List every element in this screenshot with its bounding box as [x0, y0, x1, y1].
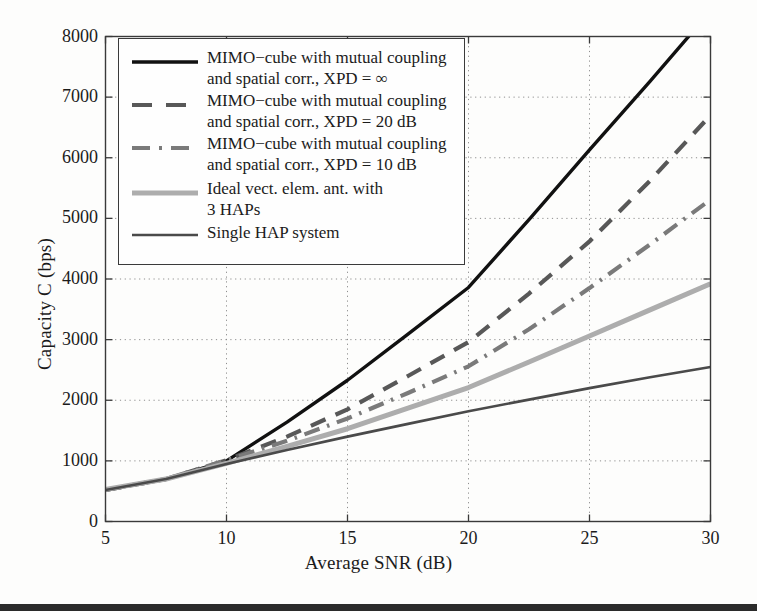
legend-swatch-line-solid-black	[129, 47, 201, 69]
page-footer-bar	[0, 604, 757, 611]
legend-swatch-line-solid-dark	[129, 222, 201, 244]
legend-item: Single HAP system	[119, 222, 464, 244]
ytick-label: 2000	[20, 389, 98, 410]
series-line-5	[106, 367, 711, 490]
ytick-label: 3000	[20, 329, 98, 350]
y-axis-title: Capacity C (bps)	[34, 238, 56, 370]
xtick-label: 30	[681, 528, 741, 549]
ytick-label: 6000	[20, 147, 98, 168]
ytick-label: 5000	[20, 207, 98, 228]
legend-swatch-line-dashdot-gray	[129, 133, 201, 155]
legend-label: MIMO−cube with mutual coupling and spati…	[207, 47, 447, 89]
legend-swatch-line-solid-lightgray	[129, 178, 201, 200]
xtick-label: 15	[318, 528, 378, 549]
legend-item: Ideal vect. elem. ant. with 3 HAPs	[119, 178, 464, 220]
legend-label: Ideal vect. elem. ant. with 3 HAPs	[207, 178, 383, 220]
legend-item: MIMO−cube with mutual coupling and spati…	[119, 133, 464, 175]
ytick-label: 4000	[20, 268, 98, 289]
legend-label: MIMO−cube with mutual coupling and spati…	[207, 133, 447, 175]
legend-swatch-line-dashed-darkgray	[129, 90, 201, 112]
legend-item: MIMO−cube with mutual coupling and spati…	[119, 90, 464, 132]
ytick-label: 1000	[20, 450, 98, 471]
x-axis-title: Average SNR (dB)	[0, 552, 757, 574]
chart-legend: MIMO−cube with mutual coupling and spati…	[118, 38, 465, 265]
xtick-label: 25	[560, 528, 620, 549]
ytick-label: 7000	[20, 86, 98, 107]
xtick-label: 10	[197, 528, 257, 549]
figure-canvas: 0 1000 2000 3000 4000 5000 6000 7000 800…	[0, 0, 757, 611]
series-line-4	[106, 284, 711, 490]
legend-label: MIMO−cube with mutual coupling and spati…	[207, 90, 447, 132]
xtick-label: 20	[439, 528, 499, 549]
legend-label: Single HAP system	[207, 222, 340, 243]
ytick-label: 8000	[20, 26, 98, 47]
legend-item: MIMO−cube with mutual coupling and spati…	[119, 47, 464, 89]
xtick-label: 5	[76, 528, 136, 549]
